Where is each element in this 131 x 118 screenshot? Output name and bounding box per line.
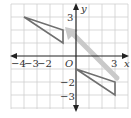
y-axis-label: y — [80, 3, 87, 14]
x-tick-label: 3 — [111, 58, 117, 69]
y-axis-arrow-down-icon — [73, 105, 79, 112]
y-tick-label: 3 — [67, 12, 73, 23]
transformation-arrow — [65, 27, 117, 78]
y-tick-label: −2 — [60, 77, 75, 88]
x-tick-label: −2 — [37, 58, 52, 69]
coordinate-diagram: y x O −4 −3 −2 3 3 −2 −3 — [0, 0, 131, 118]
origin-label: O — [65, 58, 73, 69]
y-tick-label: −3 — [60, 91, 75, 102]
x-axis-label: x — [124, 58, 130, 69]
